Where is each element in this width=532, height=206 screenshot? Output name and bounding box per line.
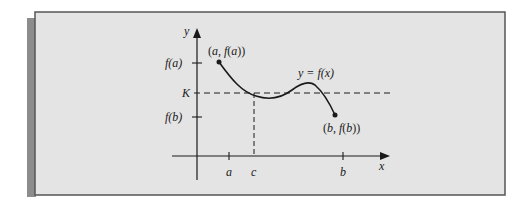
start-point-label: (a, f(a)) xyxy=(208,44,245,58)
end-point-label: (b, f(b)) xyxy=(323,121,360,135)
y-tick-label-fa: f(a) xyxy=(165,56,182,70)
y-tick-label-fb: f(b) xyxy=(165,110,182,124)
x-tick-label-c: c xyxy=(251,165,257,179)
curve-label: y = f(x) xyxy=(297,66,334,80)
y-tick-label-K: K xyxy=(181,86,191,100)
end-point xyxy=(333,113,338,118)
figure-panel xyxy=(35,12,505,195)
ivt-figure: y x a c b f(a) K f(b) (a, f(a)) (b, f(b)… xyxy=(0,0,532,206)
x-axis-label: x xyxy=(378,159,385,173)
start-point xyxy=(217,60,222,65)
y-axis-label: y xyxy=(183,24,190,38)
x-tick-label-b: b xyxy=(340,165,346,179)
x-tick-label-a: a xyxy=(226,165,232,179)
